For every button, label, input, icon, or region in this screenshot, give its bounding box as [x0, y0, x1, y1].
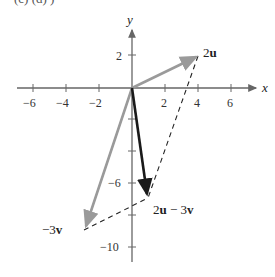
x-axis-label: x: [261, 80, 268, 95]
x-tick-neg2: −2: [89, 96, 102, 110]
x-tick-neg6: −6: [23, 96, 36, 110]
vector-2u-minus-3v-arrow: [132, 88, 147, 194]
label-2u: 2u: [203, 45, 217, 60]
y-axis: [128, 30, 136, 262]
label-neg3v: −3v: [42, 222, 63, 237]
vector-2u-arrow: [132, 57, 196, 88]
x-tick-4: 4: [194, 96, 200, 110]
y-tick-neg10: −10: [100, 240, 119, 254]
x-tick-6: 6: [227, 96, 233, 110]
vector-diagram: −6 −4 −2 2 4 6 x y 2 −6 −10 2u −3v 2u − …: [0, 0, 275, 277]
y-axis-label: y: [125, 12, 133, 27]
y-tick-2: 2: [116, 49, 122, 63]
x-tick-2: 2: [161, 96, 167, 110]
y-tick-neg6: −6: [108, 176, 121, 190]
label-2u-minus-3v: 2u − 3v: [153, 202, 194, 217]
x-tick-neg4: −4: [56, 96, 69, 110]
